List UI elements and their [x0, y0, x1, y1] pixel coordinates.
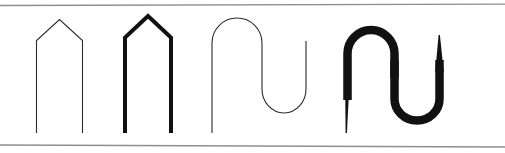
figure-canvas — [0, 0, 505, 153]
figure-root — [0, 0, 505, 153]
